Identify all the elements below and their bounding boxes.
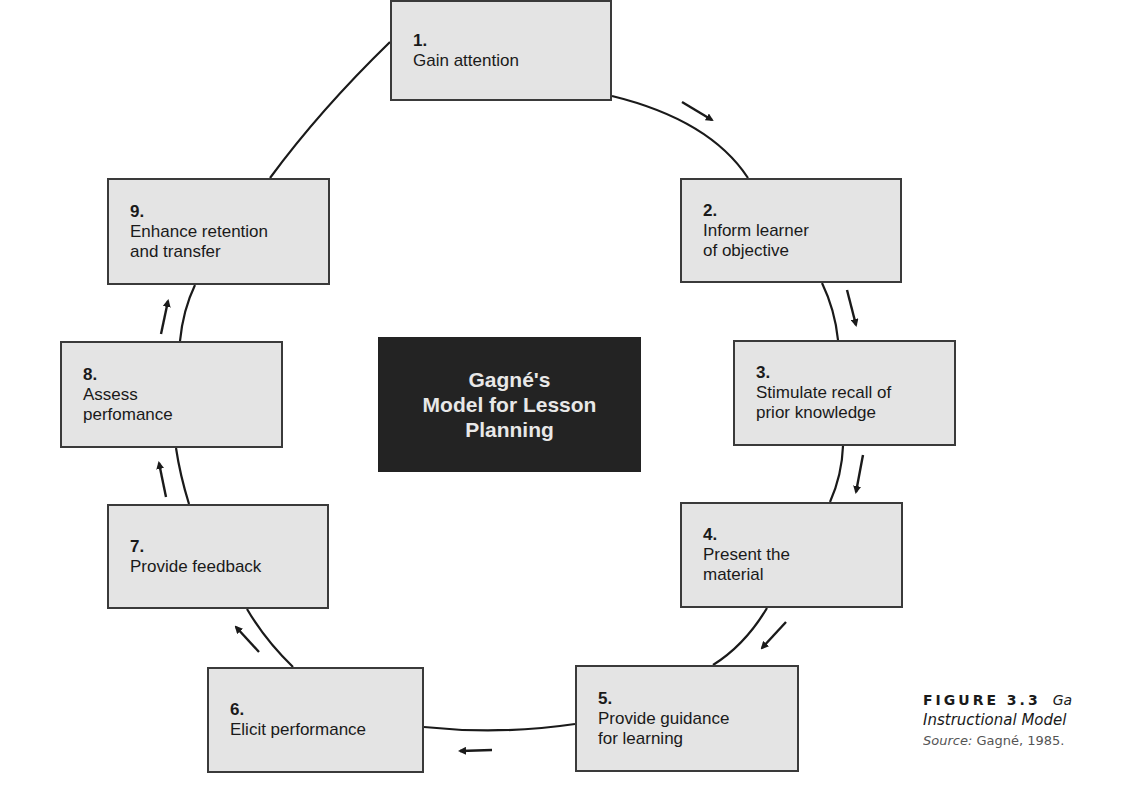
step-label: Provide feedback <box>130 557 327 577</box>
arrow-3-to-4-icon <box>856 455 863 492</box>
arrow-2-to-3-icon <box>847 290 856 325</box>
step-number: 2. <box>703 201 900 221</box>
step-number: 8. <box>83 365 281 385</box>
arc-1-2 <box>612 96 748 178</box>
arrow-7-to-8-icon <box>159 463 166 497</box>
arc-9-8 <box>180 285 195 341</box>
step-label: Provide guidance for learning <box>598 709 797 749</box>
figure-title-part-2: Instructional Model <box>923 710 1139 730</box>
step-label: Stimulate recall of prior knowledge <box>756 383 954 423</box>
step-7-provide-feedback: 7. Provide feedback <box>107 504 329 609</box>
arc-4-5 <box>713 608 767 665</box>
gagne-lesson-planning-diagram: 1. Gain attention 2. Inform learner of o… <box>0 0 1139 809</box>
step-number: 6. <box>230 700 422 720</box>
arc-3-4 <box>830 446 843 502</box>
step-label: Inform learner of objective <box>703 221 900 261</box>
source-label: Source: <box>923 733 972 748</box>
arc-8-7 <box>176 448 189 504</box>
step-number: 7. <box>130 537 327 557</box>
step-number: 1. <box>413 31 610 51</box>
arrow-6-to-7-icon <box>236 627 259 652</box>
figure-caption: FIGURE 3.3Ga Instructional Model Source:… <box>923 690 1139 752</box>
arrow-8-to-9-icon <box>161 301 168 334</box>
arc-5-6 <box>424 724 575 730</box>
figure-source: Source: Gagné, 1985. <box>923 730 1139 752</box>
center-title-box: Gagné's Model for Lesson Planning <box>378 337 641 472</box>
arrow-4-to-5-icon <box>762 622 786 648</box>
step-5-provide-guidance: 5. Provide guidance for learning <box>575 665 799 772</box>
step-number: 4. <box>703 525 901 545</box>
step-4-present-material: 4. Present the material <box>680 502 903 608</box>
step-label: Assess perfomance <box>83 385 281 425</box>
figure-caption-line-1: FIGURE 3.3Ga <box>923 690 1139 710</box>
figure-title-part-1: Ga <box>1053 692 1072 708</box>
step-label: Present the material <box>703 545 901 585</box>
step-number: 9. <box>130 202 328 222</box>
arc-1-9 <box>270 42 390 178</box>
arc-7-6 <box>247 609 293 667</box>
arc-2-3 <box>822 283 838 340</box>
step-8-assess-performance: 8. Assess perfomance <box>60 341 283 448</box>
step-number: 3. <box>756 363 954 383</box>
step-label: Gain attention <box>413 51 610 71</box>
source-value: Gagné, 1985. <box>976 733 1064 748</box>
step-label: Elicit performance <box>230 720 422 740</box>
arrow-1-to-2-icon <box>682 102 712 120</box>
figure-number: FIGURE 3.3 <box>923 692 1041 708</box>
arrow-5-to-6-icon <box>460 750 492 751</box>
step-3-stimulate-recall: 3. Stimulate recall of prior knowledge <box>733 340 956 446</box>
step-1-gain-attention: 1. Gain attention <box>390 0 612 101</box>
step-2-inform-learner: 2. Inform learner of objective <box>680 178 902 283</box>
step-label: Enhance retention and transfer <box>130 222 328 262</box>
step-6-elicit-performance: 6. Elicit performance <box>207 667 424 773</box>
step-9-enhance-retention: 9. Enhance retention and transfer <box>107 178 330 285</box>
step-number: 5. <box>598 689 797 709</box>
